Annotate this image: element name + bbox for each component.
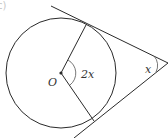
center-point — [59, 71, 62, 74]
part-label: c) — [0, 0, 6, 11]
apex-angle-label: x — [145, 63, 152, 76]
upper-radius — [61, 25, 86, 73]
apex-angle-arc — [154, 56, 158, 72]
center-angle-arc — [68, 60, 76, 85]
center-angle-label: 2x — [80, 68, 95, 81]
center-label: O — [48, 76, 57, 89]
upper-tangent-line — [51, 6, 168, 63]
circle-tangent-diagram: c) O 2x x — [0, 0, 168, 138]
